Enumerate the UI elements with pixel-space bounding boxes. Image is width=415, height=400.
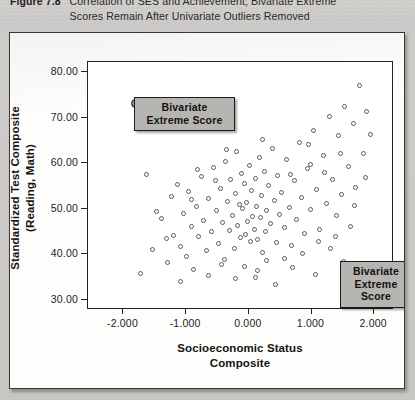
scatter-point — [248, 239, 253, 244]
scatter-point — [150, 247, 155, 252]
x-axis-tick-label: -2.000 — [107, 317, 138, 329]
scatter-point — [270, 146, 275, 151]
y-axis-tick-label: 40.00 — [51, 247, 78, 259]
scatter-point — [250, 214, 255, 219]
scatter-point — [189, 197, 194, 202]
scatter-point — [334, 213, 339, 218]
y-axis-tick-label: 50.00 — [51, 202, 78, 214]
scatter-point — [328, 246, 333, 251]
scatter-point — [297, 140, 302, 145]
scatter-point — [288, 172, 293, 177]
scatter-point — [305, 166, 310, 171]
scatter-point — [249, 188, 254, 193]
scatter-point — [222, 257, 227, 262]
scatter-point — [252, 227, 257, 232]
scatter-point — [211, 165, 216, 170]
scatter-point — [264, 258, 269, 263]
scatter-point — [195, 167, 200, 172]
x-axis-tick — [311, 308, 312, 314]
figure-number-label: Figure 7.8 — [10, 0, 70, 9]
scatter-point — [245, 219, 250, 224]
scatter-point — [191, 267, 196, 272]
scatter-point — [275, 173, 280, 178]
scatter-point — [316, 239, 321, 244]
scatter-point — [184, 254, 189, 259]
scatter-point — [206, 273, 211, 278]
scatter-point — [254, 204, 259, 209]
y-axis-tick — [81, 117, 88, 118]
scatter-point — [204, 248, 209, 253]
scatter-point — [311, 128, 316, 133]
scatter-point — [300, 251, 305, 256]
x-axis-tick-label: 1.000 — [297, 317, 324, 329]
scatter-point — [262, 169, 267, 174]
scatter-point — [253, 176, 258, 181]
figure-caption: Figure 7.8 Correlation of SES and Achiev… — [0, 0, 415, 24]
scatter-point — [308, 207, 313, 212]
scatter-point — [159, 216, 164, 221]
y-axis-tick — [81, 299, 88, 300]
scatter-point — [189, 224, 194, 229]
scatter-point — [178, 279, 183, 284]
scatter-point — [338, 151, 343, 156]
scatter-point — [255, 237, 260, 242]
scatter-point — [266, 183, 271, 188]
scatter-point — [361, 151, 366, 156]
scatter-point — [351, 121, 356, 126]
scatter-point — [336, 133, 341, 138]
scatter-point — [299, 195, 304, 200]
figure-caption-text: Correlation of SES and Achievement; Biva… — [70, 0, 370, 24]
scatter-point — [352, 203, 357, 208]
scatter-point — [279, 190, 284, 195]
scatter-point — [240, 206, 245, 211]
scatter-point — [144, 172, 149, 177]
scatter-point — [292, 178, 297, 183]
scatter-point — [302, 231, 307, 236]
scatter-point — [243, 232, 248, 237]
scatter-point — [242, 181, 247, 186]
scatter-point — [282, 256, 287, 261]
y-axis-tick-label: 70.00 — [51, 111, 78, 123]
scatter-point — [219, 262, 224, 267]
scatter-point — [225, 199, 230, 204]
scatter-point — [273, 282, 278, 287]
scatter-point — [263, 229, 268, 234]
scatter-point — [214, 208, 219, 213]
scatter-point — [333, 234, 338, 239]
scatter-point — [220, 220, 225, 225]
scatter-point — [259, 193, 264, 198]
scatter-point — [138, 271, 143, 276]
figure-page: Figure 7.8 Correlation of SES and Achiev… — [0, 0, 415, 400]
scatter-point — [330, 177, 335, 182]
annotation-bivariate-extreme-bottom: Bivariate Extreme Score — [340, 261, 405, 308]
y-axis-tick — [81, 253, 88, 254]
scatter-point — [171, 233, 176, 238]
scatter-point — [175, 182, 180, 187]
scatter-point — [218, 186, 223, 191]
scatter-point — [257, 155, 262, 160]
scatter-point — [165, 260, 170, 265]
scatter-point — [287, 205, 292, 210]
scatter-point — [258, 215, 263, 220]
scatter-point — [233, 191, 238, 196]
x-axis-tick-label: 0.000 — [234, 317, 261, 329]
scatter-point — [228, 177, 233, 182]
x-axis-tick-label: -1.000 — [170, 317, 201, 329]
scatter-point — [224, 147, 229, 152]
scatter-point — [242, 264, 247, 269]
scatter-point — [181, 211, 186, 216]
scatter-point — [363, 175, 368, 180]
x-axis-tick — [122, 308, 123, 314]
scatter-point — [317, 227, 322, 232]
scatter-point — [196, 234, 201, 239]
scatter-point — [260, 137, 265, 142]
scatter-point — [201, 218, 206, 223]
scatter-point — [247, 163, 252, 168]
scatter-point — [164, 236, 169, 241]
annotation-bivariate-extreme-top: Bivariate Extreme Score — [134, 97, 235, 131]
scatter-point — [235, 223, 240, 228]
scatter-point — [255, 268, 260, 273]
y-axis-tick — [81, 208, 88, 209]
y-axis-title: Standardized Test Composite(Reading, Mat… — [12, 63, 34, 313]
scatter-point — [306, 142, 311, 147]
